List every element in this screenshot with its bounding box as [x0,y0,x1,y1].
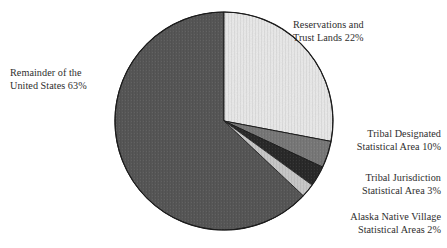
slice-label-tribal-designated-line2: Statistical Area 10% [357,140,441,153]
pie-chart-figure: Reservations and Trust Lands 22% Remaind… [0,0,447,248]
slice-label-tribal-jurisdiction-line2: Statistical Area 3% [362,184,441,197]
slice-label-remainder: Remainder of the United States 63% [10,66,87,93]
slice-label-reservations-line2: Trust Lands 22% [293,31,364,44]
slice-label-tribal-designated: Tribal Designated Statistical Area 10% [357,127,441,154]
slice-label-tribal-jurisdiction-line1: Tribal Jurisdiction [362,171,441,184]
slice-label-tribal-designated-line1: Tribal Designated [357,127,441,140]
slice-label-remainder-line1: Remainder of the [10,66,87,79]
pie-texture-overlay [116,13,333,230]
slice-label-alaska-native-village-line2: Statistical Areas 2% [350,223,441,236]
slice-label-alaska-native-village-line1: Alaska Native Village [350,210,441,223]
slice-label-reservations: Reservations and Trust Lands 22% [293,18,364,45]
slice-label-alaska-native-village: Alaska Native Village Statistical Areas … [350,210,441,237]
slice-label-remainder-line2: United States 63% [10,79,87,92]
slice-label-tribal-jurisdiction: Tribal Jurisdiction Statistical Area 3% [362,171,441,198]
slice-label-reservations-line1: Reservations and [293,18,364,31]
